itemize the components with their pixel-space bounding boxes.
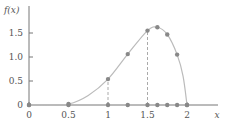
curve-point [155, 25, 159, 29]
curve-point [165, 32, 169, 36]
function-plot: 00.51.01.500.511.52xf(x) [0, 0, 227, 128]
axes [29, 6, 218, 105]
x-axis-label: x [214, 110, 219, 120]
axis-point [165, 103, 169, 107]
axis-point [155, 103, 159, 107]
y-axis-label: f(x) [3, 5, 20, 15]
curve-point [106, 77, 110, 81]
x-tick-label: 0.5 [61, 110, 76, 120]
x-tick-label: 0 [26, 110, 32, 120]
dashed-guides [108, 31, 148, 105]
curve-point [175, 52, 179, 56]
curve-point [66, 102, 70, 106]
axis-point [145, 103, 149, 107]
axis-point [175, 103, 179, 107]
curve-point [145, 28, 149, 32]
curve-point [185, 103, 189, 107]
y-tick-label: 1.5 [9, 28, 24, 38]
curve-point [27, 103, 31, 107]
x-tick-label: 1 [105, 110, 111, 120]
x-tick-label: 2 [184, 110, 190, 120]
axis-point [106, 103, 110, 107]
curve-point [126, 52, 130, 56]
y-tick-label: 1.0 [9, 52, 24, 62]
axis-point [126, 103, 130, 107]
x-tick-label: 1.5 [140, 110, 155, 120]
y-tick-label: 0 [17, 100, 23, 110]
y-tick-label: 0.5 [9, 76, 24, 86]
